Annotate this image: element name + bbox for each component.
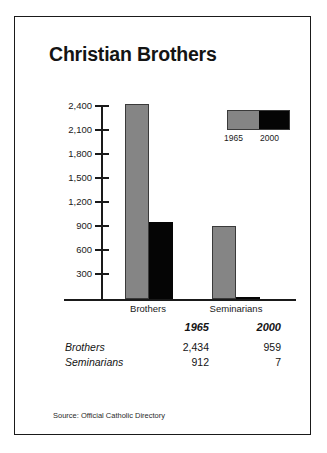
bar-seminarians-2000 xyxy=(236,297,260,299)
legend-label-2000: 2000 xyxy=(260,133,279,143)
chart-frame: Christian Brothers 2,400 2,100 1,800 1,5… xyxy=(14,16,311,435)
table-cell-seminarians-2000: 7 xyxy=(219,356,281,368)
table-cell-seminarians-1965: 912 xyxy=(147,356,209,368)
table-header-row: 1965 2000 xyxy=(51,321,299,341)
legend-swatch-box xyxy=(227,110,290,130)
data-table: 1965 2000 Brothers 2,434 959 Seminarians… xyxy=(51,321,299,371)
legend-swatch-2000 xyxy=(259,111,290,129)
table-row: Brothers 2,434 959 xyxy=(51,341,299,356)
chart-legend: 1965 2000 xyxy=(227,110,295,133)
legend-swatch-1965 xyxy=(228,111,259,129)
source-note: Source: Official Catholic Directory xyxy=(53,411,165,420)
x-axis-baseline xyxy=(64,299,296,301)
table-row: Seminarians 912 7 xyxy=(51,356,299,371)
table-cell-brothers-1965: 2,434 xyxy=(147,341,209,353)
page-title: Christian Brothers xyxy=(49,43,217,66)
table-row-label-seminarians: Seminarians xyxy=(65,356,123,368)
x-category-label-seminarians: Seminarians xyxy=(183,303,289,314)
legend-label-1965: 1965 xyxy=(224,133,243,143)
table-header-2000: 2000 xyxy=(219,321,281,333)
table-row-label-brothers: Brothers xyxy=(65,341,105,353)
bar-brothers-2000 xyxy=(149,222,173,299)
bar-brothers-1965 xyxy=(125,104,149,299)
table-header-1965: 1965 xyxy=(147,321,209,333)
bar-seminarians-1965 xyxy=(212,226,236,299)
table-cell-brothers-2000: 959 xyxy=(219,341,281,353)
